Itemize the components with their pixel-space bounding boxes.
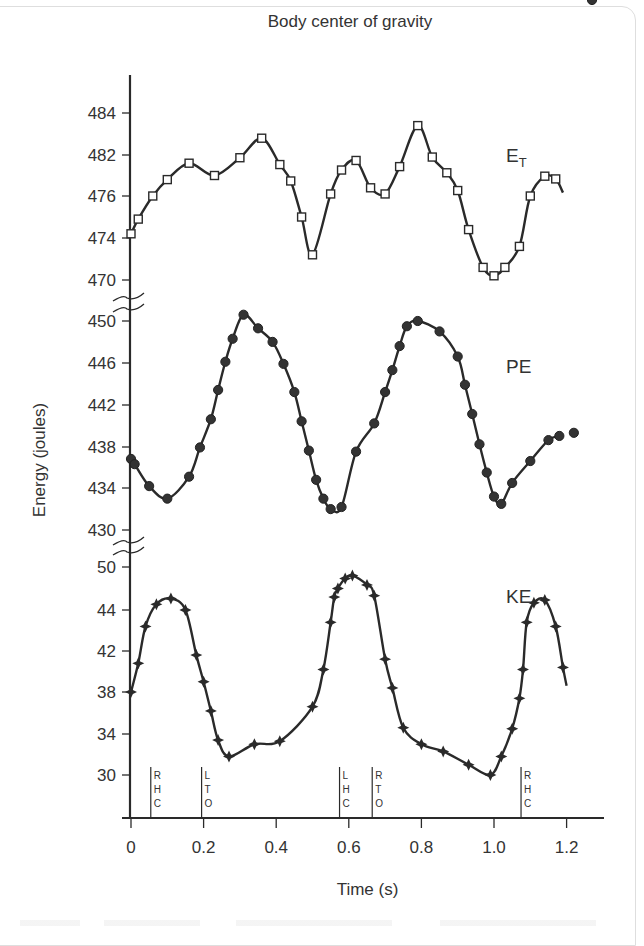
circle-marker-icon — [413, 316, 422, 325]
square-marker-icon — [236, 154, 244, 162]
star-marker-icon — [212, 734, 224, 746]
series-label: ET — [506, 145, 527, 170]
gait-event-label: H — [343, 784, 350, 795]
markers — [125, 570, 569, 781]
circle-marker-icon — [475, 440, 484, 449]
square-marker-icon — [327, 190, 335, 198]
gait-event-label: C — [343, 798, 350, 809]
star-marker-icon — [513, 692, 525, 704]
star-marker-icon — [205, 705, 217, 717]
circle-marker-icon — [402, 322, 411, 331]
circle-marker-icon — [228, 334, 237, 343]
gait-event-label: T — [375, 784, 381, 795]
y-tick-label: 446 — [88, 354, 116, 373]
y-tick-label: 438 — [88, 438, 116, 457]
star-marker-icon — [495, 751, 507, 763]
gait-event-label: C — [524, 798, 531, 809]
square-marker-icon — [428, 153, 436, 161]
star-marker-icon — [198, 676, 210, 688]
y-tick-label: 484 — [88, 104, 116, 123]
circle-marker-icon — [326, 505, 335, 514]
star-marker-icon — [550, 620, 562, 632]
square-marker-icon — [338, 166, 346, 174]
series-ke: KE — [125, 570, 569, 781]
square-marker-icon — [352, 156, 360, 164]
gait-event-label: T — [205, 784, 211, 795]
square-marker-icon — [479, 263, 487, 271]
circle-marker-icon — [381, 387, 390, 396]
axis-break-icon — [112, 293, 146, 314]
y-tick-label: 430 — [88, 521, 116, 540]
star-marker-icon — [132, 657, 144, 669]
circle-marker-icon — [206, 415, 215, 424]
circle-marker-icon — [145, 482, 154, 491]
square-marker-icon — [276, 161, 284, 169]
x-tick-label: 1.0 — [482, 838, 506, 857]
x-tick-label: 0.6 — [337, 838, 361, 857]
gait-event-label: O — [205, 798, 213, 809]
circle-marker-icon — [163, 494, 172, 503]
circle-marker-icon — [195, 443, 204, 452]
star-marker-icon — [557, 661, 569, 673]
circle-marker-icon — [253, 324, 262, 333]
markers — [127, 122, 560, 280]
circle-marker-icon — [184, 472, 193, 481]
star-marker-icon — [190, 649, 202, 661]
square-marker-icon — [381, 190, 389, 198]
square-marker-icon — [443, 169, 451, 177]
circle-marker-icon — [388, 366, 397, 375]
square-marker-icon — [367, 184, 375, 192]
circle-marker-icon — [370, 419, 379, 428]
gait-event-label: R — [154, 770, 161, 781]
square-marker-icon — [515, 242, 523, 250]
circle-marker-icon — [319, 494, 328, 503]
circle-marker-icon — [395, 341, 404, 350]
square-marker-icon — [454, 187, 462, 195]
circle-marker-icon — [351, 447, 360, 456]
axis-break-icon — [112, 537, 146, 557]
y-tick-label: 44 — [97, 601, 116, 620]
star-marker-icon — [368, 590, 380, 602]
x-tick-label: 0.8 — [410, 838, 434, 857]
circle-marker-icon — [239, 310, 248, 319]
star-marker-icon — [325, 616, 337, 628]
circle-marker-icon — [221, 357, 230, 366]
star-marker-icon — [397, 722, 409, 734]
y-tick-label: 482 — [88, 146, 116, 165]
square-marker-icon — [396, 163, 404, 171]
square-marker-icon — [526, 192, 534, 200]
gait-event-label: R — [524, 770, 531, 781]
y-tick-label: 34 — [97, 725, 116, 744]
star-marker-icon — [463, 759, 475, 771]
x-tick-label: 0.4 — [264, 838, 288, 857]
circle-marker-icon — [279, 359, 288, 368]
square-marker-icon — [210, 172, 218, 180]
gait-event-label: O — [375, 798, 383, 809]
square-marker-icon — [552, 175, 560, 183]
square-marker-icon — [287, 177, 295, 185]
y-tick-label: 38 — [97, 683, 116, 702]
circle-marker-icon — [569, 428, 578, 437]
square-marker-icon — [298, 213, 306, 221]
star-marker-icon — [140, 620, 152, 632]
star-marker-icon — [125, 686, 137, 698]
y-tick-label: 434 — [88, 479, 116, 498]
square-marker-icon — [185, 159, 193, 167]
star-marker-icon — [521, 616, 533, 628]
circle-marker-icon — [460, 380, 469, 389]
gait-event-label: L — [343, 770, 349, 781]
markers — [126, 0, 596, 514]
circle-marker-icon — [290, 387, 299, 396]
square-marker-icon — [414, 122, 422, 130]
star-marker-icon — [379, 653, 391, 665]
star-marker-icon — [248, 738, 260, 750]
circle-marker-icon — [526, 456, 535, 465]
x-tick-label: 0 — [126, 838, 135, 857]
star-marker-icon — [223, 751, 235, 763]
y-tick-label: 450 — [88, 312, 116, 331]
circle-marker-icon — [435, 327, 444, 336]
square-marker-icon — [127, 230, 135, 238]
circle-marker-icon — [508, 478, 517, 487]
y-tick-label: 442 — [88, 396, 116, 415]
